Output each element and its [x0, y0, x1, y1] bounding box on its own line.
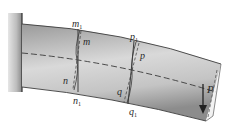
label-n1: n1	[73, 95, 81, 107]
label-p1: p1	[129, 31, 138, 43]
label-q1: q1	[129, 106, 137, 118]
label-p: p	[139, 50, 145, 61]
label-n: n	[63, 75, 68, 86]
label-m: m	[83, 36, 90, 47]
fixed-support-wall	[8, 13, 22, 92]
cantilever-beam-diagram: m1 m n n1 p1 p q q1 P	[0, 0, 225, 131]
label-q: q	[117, 86, 122, 97]
cantilever-beam	[22, 24, 221, 121]
label-P: P	[206, 83, 214, 95]
label-m1: m1	[72, 18, 82, 30]
